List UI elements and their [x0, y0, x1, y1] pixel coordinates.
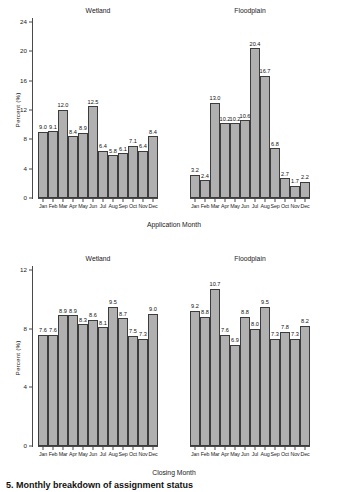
x-tick-mark: [300, 199, 310, 202]
bar[interactable]: [260, 307, 270, 446]
bar[interactable]: [148, 314, 158, 446]
bar-value-label: 20.4: [250, 42, 261, 48]
bar[interactable]: [230, 345, 240, 446]
figure-caption: 5. Monthly breakdown of assignment statu…: [6, 480, 342, 492]
bar[interactable]: [200, 180, 210, 198]
bar-group: 20.4: [250, 22, 260, 198]
bar[interactable]: [210, 103, 220, 198]
bar-group: 10.2: [230, 22, 240, 198]
bar[interactable]: [200, 317, 210, 446]
bar[interactable]: [240, 120, 250, 198]
bar-value-label: 2.4: [201, 174, 209, 180]
x-tick-mark: [210, 199, 220, 202]
bar[interactable]: [290, 339, 300, 446]
bar[interactable]: [300, 326, 310, 446]
bar[interactable]: [190, 175, 200, 198]
x-tick-mark: [280, 447, 290, 450]
bar-value-label: 1.7: [291, 179, 299, 185]
bar[interactable]: [128, 146, 138, 198]
bar[interactable]: [48, 335, 58, 446]
y-tick-label: 12: [20, 107, 27, 113]
bar[interactable]: [270, 148, 280, 198]
bar[interactable]: [210, 289, 220, 446]
x-tick-label: Sep: [270, 204, 280, 209]
x-tick-label: Dec: [148, 204, 158, 209]
bar-group: 6.1: [118, 22, 128, 198]
bar[interactable]: [138, 151, 148, 198]
bar[interactable]: [108, 155, 118, 198]
bar[interactable]: [128, 336, 138, 446]
x-axis-labels: JanFebMarAprMayJunJulAugSepOctNovDec: [38, 452, 158, 457]
bar-group: 13.0: [210, 22, 220, 198]
plot-area: 9.28.810.77.66.98.88.09.57.37.87.38.2: [190, 270, 310, 446]
x-axis-labels: JanFebMarAprMayJunJulAugSepOctNovDec: [190, 452, 310, 457]
x-axis-ticks: [190, 447, 310, 450]
x-tick-label: Jul: [250, 204, 260, 209]
x-tick-label: Jul: [98, 204, 108, 209]
x-tick-mark: [58, 447, 68, 450]
panel-title: Floodplain: [190, 8, 310, 15]
bar[interactable]: [88, 106, 98, 198]
x-tick-label: Jul: [98, 452, 108, 457]
bar[interactable]: [78, 133, 88, 198]
y-axis-spine: [32, 18, 33, 199]
bar[interactable]: [98, 327, 108, 446]
bar-group: 7.1: [128, 22, 138, 198]
bar-value-label: 8.9: [79, 126, 87, 132]
bar-value-label: 6.4: [139, 144, 147, 150]
bar[interactable]: [300, 182, 310, 198]
x-tick-label: Aug: [108, 204, 118, 209]
bar[interactable]: [260, 76, 270, 198]
bar[interactable]: [118, 318, 128, 446]
bar[interactable]: [78, 324, 88, 446]
y-axis-ticks: 04812: [12, 256, 27, 482]
bar[interactable]: [68, 136, 78, 198]
bar[interactable]: [190, 311, 200, 446]
bar[interactable]: [290, 186, 300, 198]
x-axis-ticks: [38, 199, 158, 202]
bar[interactable]: [88, 320, 98, 446]
bar[interactable]: [250, 48, 260, 198]
x-axis-labels: JanFebMarAprMayJunJulAugSepOctNovDec: [38, 204, 158, 209]
bar[interactable]: [240, 317, 250, 446]
x-axis-title: Application Month: [0, 222, 348, 229]
y-tick-label: 0: [24, 443, 27, 449]
bar-value-label: 10.7: [210, 282, 221, 288]
bar[interactable]: [280, 178, 290, 198]
x-tick-mark: [290, 447, 300, 450]
bar-group: 5.8: [108, 22, 118, 198]
bar-value-label: 7.3: [139, 332, 147, 338]
bar[interactable]: [220, 335, 230, 446]
bar-group: 8.9: [58, 270, 68, 446]
bar[interactable]: [118, 153, 128, 198]
bar[interactable]: [148, 136, 158, 198]
bar[interactable]: [98, 151, 108, 198]
bar[interactable]: [58, 110, 68, 198]
x-tick-mark: [108, 447, 118, 450]
bar[interactable]: [138, 339, 148, 446]
bar[interactable]: [108, 307, 118, 446]
bar[interactable]: [58, 315, 68, 446]
x-tick-label: May: [230, 204, 240, 209]
x-tick-label: Aug: [260, 204, 270, 209]
bar-group: 9.5: [108, 270, 118, 446]
bar[interactable]: [38, 132, 48, 198]
x-tick-mark: [300, 447, 310, 450]
bar[interactable]: [38, 335, 48, 446]
bar-value-label: 8.7: [119, 312, 127, 318]
bar-group: 8.8: [240, 270, 250, 446]
x-tick-label: Apr: [220, 204, 230, 209]
bar[interactable]: [230, 123, 240, 198]
bar[interactable]: [48, 131, 58, 198]
bar-value-label: 9.0: [149, 307, 157, 313]
bar[interactable]: [280, 332, 290, 446]
bar[interactable]: [68, 315, 78, 446]
bar-group: 7.6: [38, 270, 48, 446]
x-tick-mark: [98, 199, 108, 202]
bar[interactable]: [220, 123, 230, 198]
panel-floodplain: Floodplain9.28.810.77.66.98.88.09.57.37.…: [190, 256, 310, 482]
bar-group: 3.2: [190, 22, 200, 198]
bar[interactable]: [270, 339, 280, 446]
x-tick-label: Oct: [128, 204, 138, 209]
bar[interactable]: [250, 329, 260, 446]
